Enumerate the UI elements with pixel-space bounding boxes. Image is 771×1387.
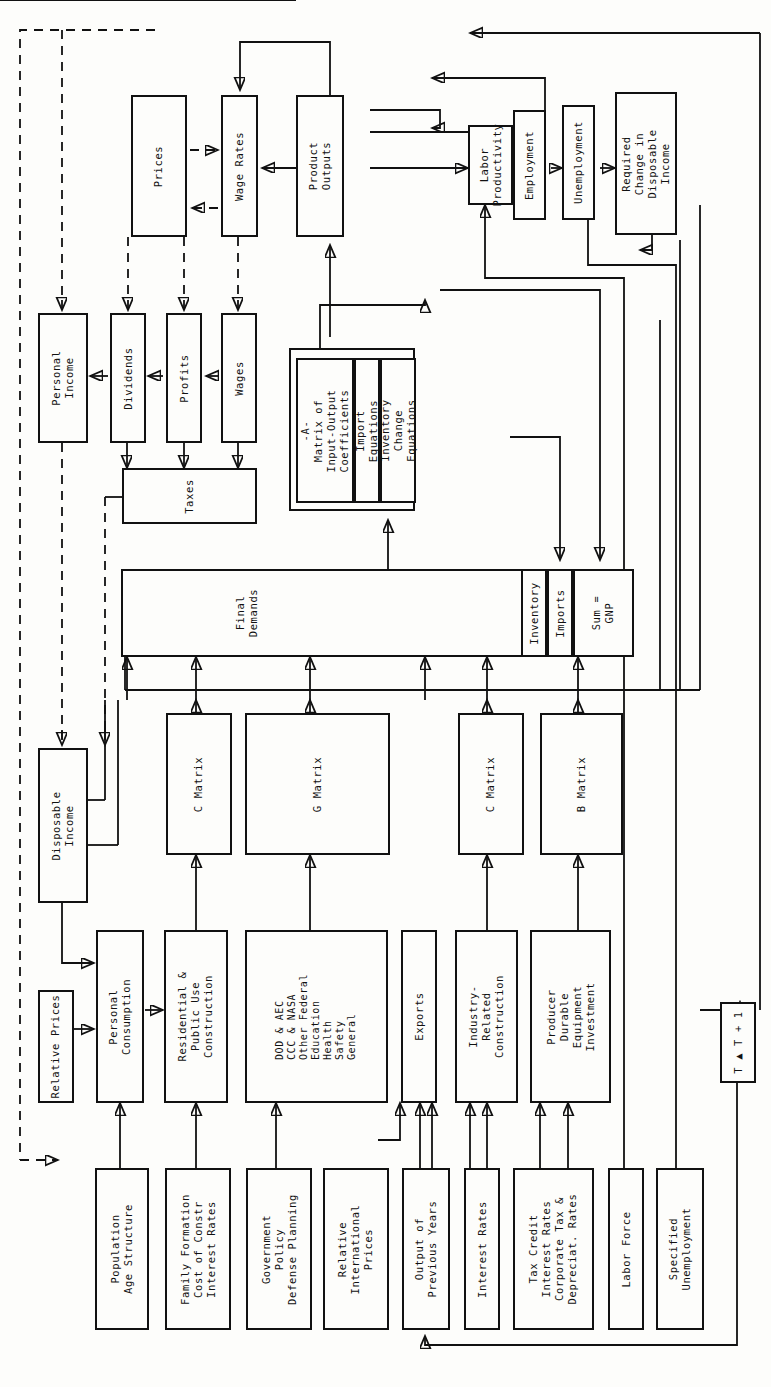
box-label: Labor Force <box>620 1211 633 1287</box>
box-label: -A- Matrix of Input-Output Coefficients <box>299 389 351 472</box>
box-inventory[interactable]: Inventory <box>521 569 547 657</box>
box-label: C Matrix <box>193 756 206 811</box>
box-label: Government Policy Defense Planning <box>260 1194 299 1305</box>
box-exports[interactable]: Exports <box>401 930 437 1103</box>
box-tax-credit[interactable]: Tax Credit Interest Rates Corporate Tax … <box>513 1168 594 1330</box>
box-sum-gnp[interactable]: Sum = GNP <box>573 569 634 657</box>
box-industry-related-construction[interactable]: Industry- Related Construction <box>455 930 518 1103</box>
box-label: Interest Rates <box>476 1201 489 1298</box>
box-employment[interactable]: Employment <box>513 110 546 220</box>
box-c-matrix-consumption[interactable]: C Matrix <box>166 713 232 855</box>
box-label: Exports <box>413 992 426 1040</box>
box-label: Dividends <box>122 347 135 409</box>
box-wage-rates[interactable]: Wage Rates <box>221 95 258 237</box>
box-taxes[interactable]: Taxes <box>122 468 257 524</box>
box-label: Disposable Income <box>50 791 76 860</box>
box-profits[interactable]: Profits <box>166 313 202 443</box>
box-wages[interactable]: Wages <box>221 313 257 443</box>
box-label: Prices <box>153 145 166 187</box>
box-label: Output of Previous Years <box>413 1201 439 1298</box>
box-b-matrix[interactable]: B Matrix <box>540 713 623 855</box>
box-label: C Matrix <box>485 756 498 811</box>
box-label: Employment <box>523 130 536 199</box>
box-residential-construction[interactable]: Residential & Public Use Construction <box>164 930 228 1103</box>
box-government-policy[interactable]: Government Policy Defense Planning <box>246 1168 312 1330</box>
box-label: Sum = GNP <box>590 596 616 631</box>
box-inventory-change-equations[interactable]: Inventory Change Equations <box>380 358 416 503</box>
box-personal-consumption[interactable]: Personal Consumption <box>96 930 144 1103</box>
box-labor-force[interactable]: Labor Force <box>608 1168 644 1330</box>
box-label: Producer Durable Equipment Investment <box>545 982 597 1051</box>
box-label: Wage Rates <box>233 131 246 200</box>
box-relative-international-prices[interactable]: Relative International Prices <box>323 1168 389 1330</box>
box-personal-income[interactable]: Personal Income <box>38 313 88 443</box>
box-product-outputs[interactable]: Product Outputs <box>296 95 344 237</box>
box-label: Tax Credit Interest Rates Corporate Tax … <box>528 1194 580 1305</box>
box-disposable-income[interactable]: Disposable Income <box>38 748 88 903</box>
box-output-of-previous-years[interactable]: Output of Previous Years <box>402 1168 450 1330</box>
box-label: Product Outputs <box>307 142 333 190</box>
box-g-matrix[interactable]: G Matrix <box>245 713 390 855</box>
box-family-formation[interactable]: Family Formation Cost of Constr Interest… <box>165 1168 231 1330</box>
box-population-age-structure[interactable]: Population Age Structure <box>95 1168 149 1330</box>
box-a-matrix[interactable]: -A- Matrix of Input-Output Coefficients <box>296 358 354 503</box>
box-label: Required Change in Disposable Income <box>620 129 672 198</box>
box-relative-prices[interactable]: Relative Prices <box>38 990 74 1103</box>
box-time-step[interactable]: T ▲ T + 1 <box>720 1002 756 1083</box>
box-label: Industry- Related Construction <box>467 975 506 1058</box>
box-interest-rates[interactable]: Interest Rates <box>464 1168 500 1330</box>
box-prices[interactable]: Prices <box>131 95 187 237</box>
box-dividends[interactable]: Dividends <box>110 313 146 443</box>
box-import-equations[interactable]: Import Equations <box>354 358 380 503</box>
box-label: Residential & Public Use Construction <box>177 972 216 1062</box>
box-label: Final Demands <box>234 589 260 637</box>
box-government-programs[interactable]: DOD & AEC CCC & NASA Other Federal Educa… <box>245 930 388 1103</box>
box-label: Personal Consumption <box>107 978 133 1054</box>
box-specified-unemployment[interactable]: Specified Unemployment <box>656 1168 704 1330</box>
box-imports[interactable]: Imports <box>547 569 573 657</box>
box-label: Labor Productivity <box>478 123 504 206</box>
box-labor-productivity[interactable]: Labor Productivity <box>468 125 513 205</box>
box-label: Family Formation Cost of Constr Interest… <box>179 1194 218 1305</box>
box-label: Profits <box>178 354 191 402</box>
box-label: Relative International Prices <box>337 1204 376 1294</box>
box-label: T ▲ T + 1 <box>732 1011 745 1073</box>
box-label: Specified Unemployment <box>667 1207 693 1290</box>
box-label: G Matrix <box>311 756 324 811</box>
box-c-matrix-construction[interactable]: C Matrix <box>458 713 524 855</box>
box-unemployment[interactable]: Unemployment <box>562 105 595 220</box>
box-label: Relative Prices <box>50 995 63 1099</box>
box-label: Inventory Change Equations <box>379 399 418 461</box>
box-required-change-disposable-income[interactable]: Required Change in Disposable Income <box>615 92 677 235</box>
box-label: DOD & AEC CCC & NASA Other Federal Educa… <box>274 973 358 1059</box>
box-label: Imports <box>554 589 567 637</box>
box-label: Wages <box>233 361 246 396</box>
box-producer-durable-equipment[interactable]: Producer Durable Equipment Investment <box>530 930 611 1103</box>
box-label: B Matrix <box>575 756 588 811</box>
box-label: Taxes <box>183 479 196 514</box>
flowchart-canvas: Prices Wage Rates Product Outputs Labor … <box>0 0 771 1387</box>
box-label: Personal Income <box>50 350 76 405</box>
box-label: Import Equations <box>354 399 380 461</box>
box-label: Inventory <box>528 582 541 644</box>
box-label: Population Age Structure <box>109 1204 135 1294</box>
box-label: Unemployment <box>572 121 585 204</box>
